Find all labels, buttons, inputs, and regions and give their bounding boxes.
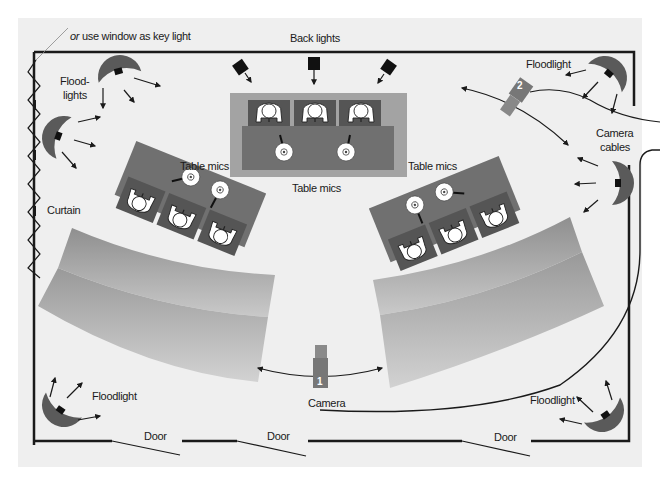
table-mics-right-label: Table mics bbox=[408, 160, 457, 172]
back-lights-label: Back lights bbox=[290, 32, 340, 44]
door-3-label: Door bbox=[494, 431, 517, 443]
camera-label: Camera bbox=[308, 397, 345, 409]
center-table bbox=[230, 93, 407, 177]
camera-cables-label-line1: Camera bbox=[596, 127, 633, 139]
curtain-label: Curtain bbox=[47, 204, 80, 216]
window-note-or: or bbox=[70, 30, 79, 42]
window-note-text: use window as key light bbox=[79, 30, 190, 42]
camera-1-number: 1 bbox=[317, 376, 322, 388]
table-mics-center-label: Table mics bbox=[292, 182, 341, 194]
camera-cables-label-line2: cables bbox=[600, 141, 630, 153]
floodlight-bottom-right-label: Floodlight bbox=[530, 394, 575, 406]
studio-floor-plan: 1 2 or use window as key light Back ligh… bbox=[0, 0, 660, 485]
camera-2-number: 2 bbox=[517, 80, 522, 92]
floodlights-label-line2: lights bbox=[63, 89, 87, 101]
window-note: or use window as key light bbox=[70, 30, 191, 42]
floodlight-top-right-label: Floodlight bbox=[526, 58, 571, 70]
floodlights-label-line1: Flood- bbox=[60, 75, 89, 87]
floodlight-bottom-left-label: Floodlight bbox=[92, 390, 137, 402]
table-mics-left-label: Table mics bbox=[180, 160, 229, 172]
door-1-label: Door bbox=[144, 430, 167, 442]
door-2-label: Door bbox=[267, 430, 290, 442]
